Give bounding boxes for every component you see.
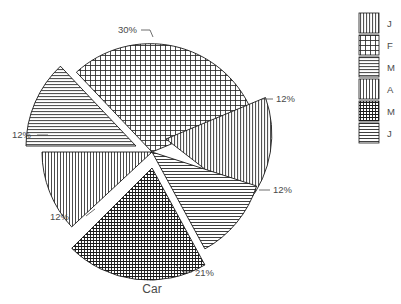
legend-swatch-dense-crosshatch-icon xyxy=(359,101,379,121)
legend-swatch-dense-horizontal-lines-icon xyxy=(359,123,379,143)
chart-legend: J F M A M J xyxy=(359,13,395,143)
legend-item-j-january[interactable]: J xyxy=(359,13,392,33)
pie-label-j-january: 12% xyxy=(276,93,296,104)
legend-item-f[interactable]: F xyxy=(359,35,393,55)
chart-title: Car xyxy=(142,282,161,296)
leader-line-f xyxy=(141,30,153,37)
pie-label-f: 30% xyxy=(118,24,138,35)
pie-label-m-march: 12% xyxy=(12,129,32,140)
legend-label-a-april: A xyxy=(387,84,394,95)
pie-slices xyxy=(26,44,272,280)
legend-item-m-may[interactable]: M xyxy=(359,101,395,121)
legend-swatch-vertical-lines-icon xyxy=(359,13,379,33)
pie-label-j-june: 12% xyxy=(273,184,293,195)
legend-item-m-march[interactable]: M xyxy=(359,57,395,77)
pie-label-m-may: 21% xyxy=(195,267,215,278)
legend-item-a-april[interactable]: A xyxy=(359,79,394,99)
legend-label-j-june: J xyxy=(387,128,392,139)
legend-item-j-june[interactable]: J xyxy=(359,123,392,143)
pie-chart-canvas: 30% 12% 12% 21% 12% 12% Car J F M xyxy=(0,0,401,304)
legend-label-j-january: J xyxy=(387,18,392,29)
legend-swatch-horizontal-lines-icon xyxy=(359,57,379,77)
legend-swatch-dense-vertical-lines-icon xyxy=(359,79,379,99)
legend-swatch-crosshatch-icon xyxy=(359,35,379,55)
pie-chart-figure: 30% 12% 12% 21% 12% 12% Car J F M xyxy=(0,0,401,304)
legend-label-m-march: M xyxy=(387,62,395,73)
legend-label-m-may: M xyxy=(387,106,395,117)
legend-label-f: F xyxy=(387,40,393,51)
pie-label-a-april: 12% xyxy=(50,211,70,222)
